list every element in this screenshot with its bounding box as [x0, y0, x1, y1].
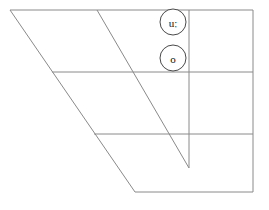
front-edge-diagonal-line [10, 10, 135, 192]
vowel-marker-o-label: o [170, 53, 176, 65]
vowel-chart-container: uː o [0, 0, 269, 210]
vowel-quadrilateral-diagram: uː o [0, 0, 269, 210]
vowel-marker-u-long-label: uː [169, 17, 178, 29]
vowel-marker-u-long[interactable]: uː [160, 9, 186, 35]
vowel-marker-o[interactable]: o [160, 45, 186, 71]
